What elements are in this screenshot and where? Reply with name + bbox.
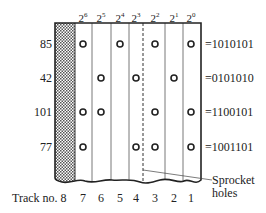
punched-hole-icon <box>152 109 158 115</box>
track-number: 3 <box>152 192 158 204</box>
bit-weight-label: 21 <box>170 10 179 24</box>
punched-hole-icon <box>188 109 194 115</box>
punched-hole-icon <box>117 41 123 47</box>
track-number: 5 <box>117 192 123 204</box>
punched-hole-icon <box>98 75 104 81</box>
punched-hole-icon <box>98 109 104 115</box>
tape-outline <box>55 23 201 183</box>
row-decimal-value: 101 <box>22 106 52 118</box>
track-number: 4 <box>133 192 139 204</box>
punched-hole-icon <box>152 144 158 150</box>
paper-tape-diagram: 26252423222120 85=101010142=0101010101=1… <box>0 0 266 213</box>
row-decimal-value: 85 <box>22 38 52 50</box>
sprocket-label-line1: Sprocket <box>212 174 255 186</box>
punched-hole-icon <box>188 41 194 47</box>
punched-hole-icon <box>188 144 194 150</box>
bit-weight-label: 26 <box>79 10 88 24</box>
punched-hole-icon <box>133 75 139 81</box>
punched-hole-icon <box>133 144 139 150</box>
row-binary-value: =1100101 <box>205 106 253 118</box>
punched-hole-icon <box>171 75 177 81</box>
punched-hole-icon <box>80 144 86 150</box>
sprocket-label-line2: holes <box>212 187 255 199</box>
row-binary-value: =1010101 <box>205 38 254 50</box>
punched-hole-icon <box>80 41 86 47</box>
row-binary-value: =1001101 <box>205 141 253 153</box>
track-number-label: Track no. 8 <box>12 192 67 204</box>
track-dividers <box>92 23 183 195</box>
punched-hole-icon <box>152 41 158 47</box>
row-decimal-value: 77 <box>22 141 52 153</box>
row-decimal-value: 42 <box>22 72 52 84</box>
track-number: 7 <box>80 192 86 204</box>
track-number: 2 <box>171 192 177 204</box>
punched-holes <box>80 41 194 150</box>
bit-weight-label: 25 <box>97 10 106 24</box>
track-8-hatched-strip <box>55 23 75 193</box>
bit-weight-label: 20 <box>187 10 196 24</box>
bit-weight-label: 23 <box>132 10 141 24</box>
row-binary-value: =0101010 <box>205 72 254 84</box>
bit-weight-label: 24 <box>116 10 125 24</box>
track-number: 6 <box>98 192 104 204</box>
bit-weight-label: 22 <box>151 10 160 24</box>
punched-hole-icon <box>80 109 86 115</box>
track-number: 1 <box>188 192 194 204</box>
sprocket-label: Sprocket holes <box>212 174 255 199</box>
